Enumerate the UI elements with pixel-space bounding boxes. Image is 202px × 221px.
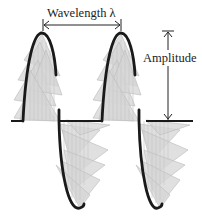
wavelength-arrow	[43, 19, 121, 31]
amplitude-arrow	[162, 31, 174, 120]
wave-diagram	[0, 0, 202, 221]
amplitude-label: Amplitude	[143, 50, 196, 66]
wavelength-label: Wavelength λ	[47, 6, 116, 20]
